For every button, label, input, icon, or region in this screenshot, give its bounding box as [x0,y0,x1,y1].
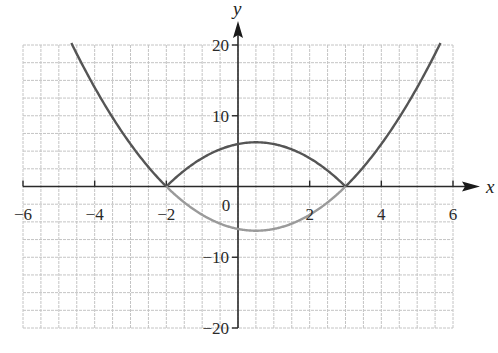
tick-labels: −6−4−20246−20−101020xy [14,0,495,338]
axes [23,21,480,328]
y-tick-label: −20 [202,319,229,338]
y-tick-label: 10 [212,107,229,126]
chart: −6−4−20246−20−101020xy [0,0,498,353]
y-tick-label: −10 [202,248,229,267]
x-tick-label: 6 [449,205,458,224]
x-tick-label: −4 [86,205,105,224]
x-tick-label: −6 [14,205,32,224]
y-tick-label: 20 [212,36,229,55]
x-tick-label: 4 [377,205,386,224]
x-tick-label: 0 [222,196,231,215]
x-axis-label: x [485,176,495,197]
x-tick-label: 2 [305,205,314,224]
y-axis-label: y [231,0,242,19]
x-tick-label: −2 [157,205,175,224]
